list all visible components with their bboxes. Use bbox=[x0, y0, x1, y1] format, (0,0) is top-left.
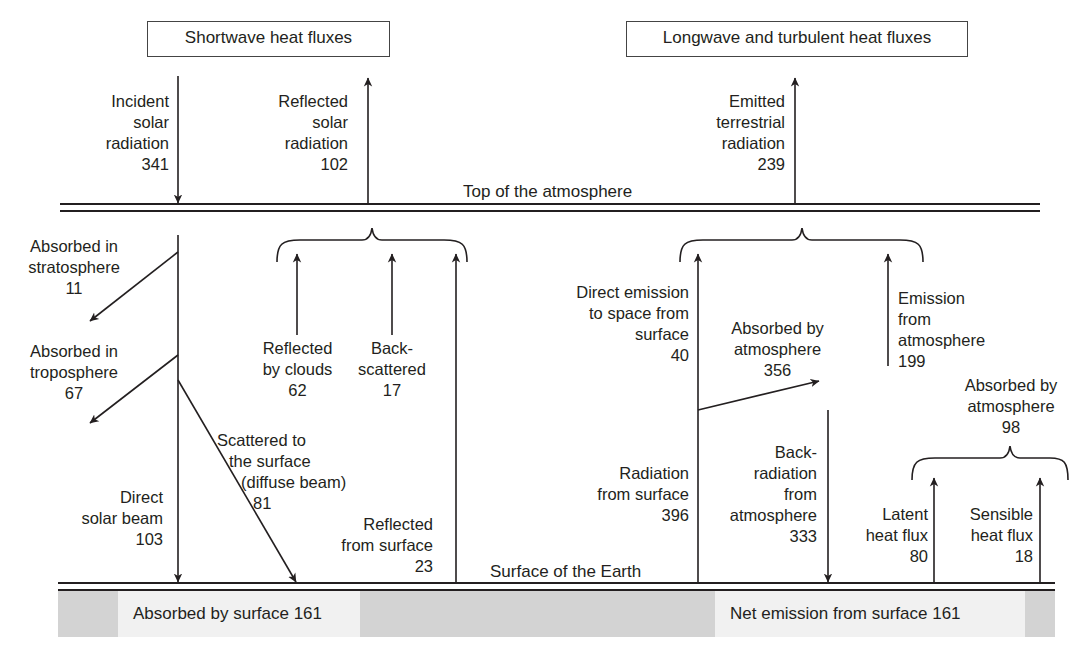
backscattered-label: Back- scattered 17 bbox=[340, 338, 444, 401]
sensible-heat-label: Sensible heat flux 18 bbox=[970, 504, 1033, 567]
surface-of-earth-label: Surface of the Earth bbox=[490, 561, 641, 582]
absorbed-by-surface-text: Absorbed by surface 161 bbox=[133, 603, 322, 625]
turbulent-brace bbox=[912, 446, 1068, 480]
absorbed-atm-arrow bbox=[698, 381, 819, 410]
longwave-header: Longwave and turbulent heat fluxes bbox=[626, 21, 968, 57]
direct-emission-label: Direct emission to space from surface 40 bbox=[576, 282, 689, 366]
back-radiation-label: Back- radiation from atmosphere 333 bbox=[730, 442, 817, 547]
top-of-atmosphere-label: Top of the atmosphere bbox=[463, 181, 632, 202]
net-emission-text: Net emission from surface 161 bbox=[730, 603, 961, 625]
absorbed-trop-label: Absorbed in troposphere 67 bbox=[14, 341, 134, 404]
absorbed-atm-label: Absorbed by atmosphere 356 bbox=[720, 318, 835, 381]
absorbed-atm-turb-label: Absorbed by atmosphere 98 bbox=[955, 375, 1067, 438]
latent-heat-label: Latent heat flux 80 bbox=[866, 504, 928, 567]
direct-beam-label: Direct solar beam 103 bbox=[81, 487, 163, 550]
sw-reflected-brace bbox=[277, 228, 467, 262]
diffuse-beam-label: Scattered to the surface (diffuse beam) … bbox=[217, 430, 346, 514]
reflected-solar-label: Reflected solar radiation 102 bbox=[278, 91, 348, 175]
incident-solar-label: Incident solar radiation 341 bbox=[106, 91, 169, 175]
radiation-surface-label: Radiation from surface 396 bbox=[597, 463, 689, 526]
reflected-clouds-label: Reflected by clouds 62 bbox=[245, 338, 350, 401]
earth-energy-budget-diagram: Shortwave heat fluxes Longwave and turbu… bbox=[0, 0, 1081, 658]
lw-emitted-brace bbox=[680, 228, 923, 262]
emitted-terrestrial-label: Emitted terrestrial radiation 239 bbox=[716, 91, 785, 175]
absorbed-strat-label: Absorbed in stratosphere 11 bbox=[14, 236, 134, 299]
shortwave-header: Shortwave heat fluxes bbox=[147, 21, 390, 57]
emission-atm-label: Emission from atmosphere 199 bbox=[885, 288, 985, 372]
reflected-surface-label: Reflected from surface 23 bbox=[341, 514, 433, 577]
